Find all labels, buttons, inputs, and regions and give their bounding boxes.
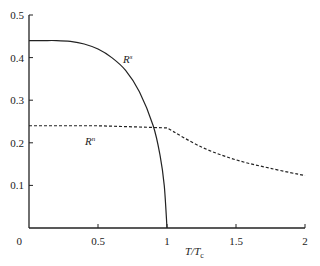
line-chart: 0.10.20.30.40.50.511.520 RsRnT/Tc (0, 0, 320, 266)
y-tick-label: 0.2 (10, 137, 24, 149)
y-tick-label: 0.3 (10, 94, 24, 106)
series-rs-line (29, 40, 167, 228)
series-rn-label: Rn (84, 135, 96, 147)
x-axis-title: T/Tc (185, 245, 204, 260)
series-group (29, 40, 305, 228)
series-rs-label: Rs (122, 53, 133, 65)
chart-container: 0.10.20.30.40.50.511.520 RsRnT/Tc (0, 0, 320, 266)
x-tick-label: 1 (164, 235, 170, 247)
y-tick-label: 0.1 (10, 179, 24, 191)
x-tick-label: 2 (302, 235, 308, 247)
y-tick-label: 0.4 (10, 52, 24, 64)
x-tick-label: 1.5 (229, 235, 243, 247)
labels-group: RsRnT/Tc (84, 53, 204, 260)
y-tick-label: 0.5 (10, 9, 24, 21)
x-tick-label: 0.5 (91, 235, 105, 247)
series-rn-line (29, 126, 305, 176)
origin-label: 0 (17, 235, 23, 247)
